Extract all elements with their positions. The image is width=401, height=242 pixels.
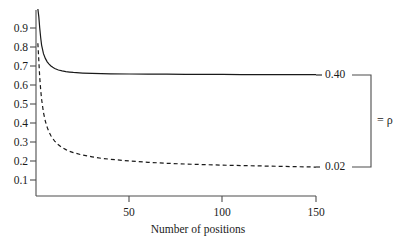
series-end-label-dashed: 0.02 — [325, 161, 345, 173]
y-tick-label-08: 0.8 — [0, 42, 28, 54]
x-tick-label-100: 100 — [202, 207, 242, 219]
x-tick-label-50: 50 — [109, 207, 149, 219]
chart-canvas — [0, 0, 401, 242]
y-tick-label-09: 0.9 — [0, 23, 28, 35]
y-tick-label-07: 0.7 — [0, 61, 28, 73]
y-tick-label-04: 0.4 — [0, 118, 28, 130]
series-end-label-solid: 0.40 — [325, 69, 345, 81]
y-tick-label-02: 0.2 — [0, 156, 28, 168]
series-line-solid — [38, 9, 316, 75]
x-tick-label-150: 150 — [296, 207, 336, 219]
y-tick-label-01: 0.1 — [0, 175, 28, 187]
x-axis-title: Number of positions — [118, 224, 278, 236]
rho-bracket-label: = ρ — [377, 114, 393, 126]
grouping-bracket — [352, 75, 371, 167]
series-line-dashed — [38, 43, 316, 167]
y-tick-label-05: 0.5 — [0, 99, 28, 111]
x-axis-ticks — [129, 196, 316, 202]
chart-figure: 0.9 0.8 0.7 0.6 0.5 0.4 0.3 0.2 0.1 50 1… — [0, 0, 401, 242]
y-tick-label-06: 0.6 — [0, 80, 28, 92]
y-tick-label-03: 0.3 — [0, 137, 28, 149]
y-axis-ticks — [30, 28, 36, 180]
